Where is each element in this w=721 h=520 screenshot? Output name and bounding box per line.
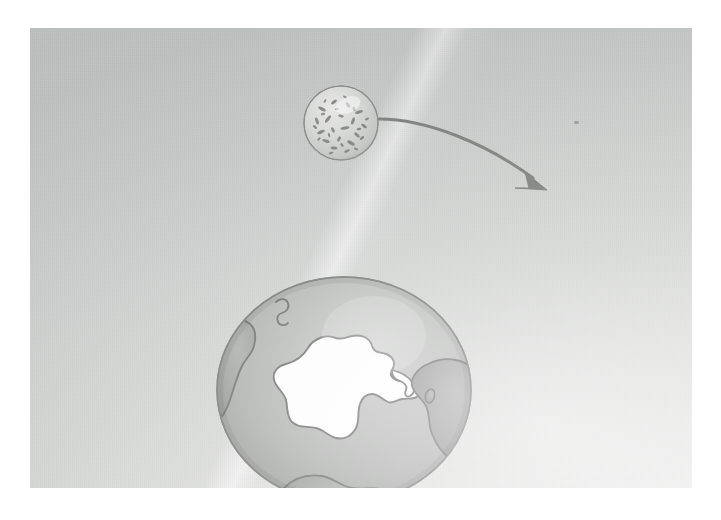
transfer-arrow-icon (375, 108, 575, 203)
microsphere-icon (301, 83, 381, 163)
scanned-figure-panel (30, 28, 692, 488)
figure-root (0, 0, 721, 520)
earth-globe-illustration (216, 276, 472, 488)
scan-dust-speck (574, 121, 579, 124)
